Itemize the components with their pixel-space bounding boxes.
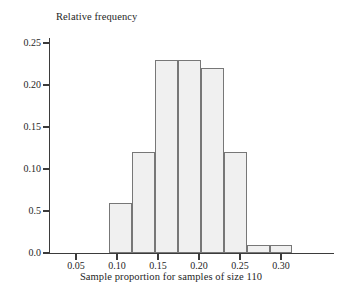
histogram-bar	[178, 60, 201, 253]
x-axis-tick-label: 0.15	[136, 260, 180, 271]
x-axis-tick-label: 0.05	[54, 260, 98, 271]
y-axis-line	[49, 38, 50, 254]
x-axis-tick-label: 0.10	[95, 260, 139, 271]
y-axis-tick-label: 0.5	[0, 205, 41, 216]
histogram-bar	[224, 152, 247, 253]
y-axis-tick-label: 0.0	[0, 247, 41, 258]
y-axis-tick-mark	[43, 42, 49, 43]
histogram-bar	[201, 68, 224, 253]
x-axis-title: Sample proportion for samples of size 11…	[0, 271, 342, 282]
y-axis-tick-mark	[43, 168, 49, 169]
y-axis-tick-mark	[43, 252, 49, 253]
histogram-figure: Relative frequency 0.00.50.100.150.200.2…	[0, 0, 342, 294]
histogram-bar	[132, 152, 155, 253]
y-axis-tick-label: 0.10	[0, 163, 41, 174]
y-axis-tick-label: 0.20	[0, 79, 41, 90]
histogram-bar	[109, 203, 132, 253]
y-axis-tick-mark	[43, 126, 49, 127]
histogram-bar	[270, 245, 293, 253]
y-axis-tick-mark	[43, 84, 49, 85]
x-axis-tick-label: 0.20	[177, 260, 221, 271]
y-axis-tick-label: 0.15	[0, 121, 41, 132]
x-axis-tick-label: 0.25	[218, 260, 262, 271]
plot-area: 0.00.50.100.150.200.250.050.100.150.200.…	[0, 0, 342, 294]
histogram-bar	[155, 60, 178, 253]
y-axis-tick-label: 0.25	[0, 37, 41, 48]
x-axis-tick-label: 0.30	[259, 260, 303, 271]
x-axis-line	[49, 253, 334, 254]
histogram-bar	[247, 245, 270, 253]
y-axis-tick-mark	[43, 210, 49, 211]
